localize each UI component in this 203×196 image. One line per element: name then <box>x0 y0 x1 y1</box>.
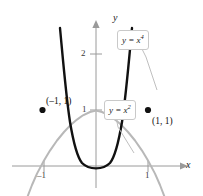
y-axis-label: y <box>113 12 117 23</box>
callout-quartic: y = x4 <box>117 30 149 50</box>
x-tick-label-1: 1 <box>145 170 150 180</box>
x-tick-label-neg1: –1 <box>37 170 46 180</box>
plot-canvas <box>0 0 203 196</box>
leader-line-quartic <box>141 47 157 90</box>
point-marker-left <box>39 107 45 113</box>
callout-quadratic: y = x2 <box>104 100 136 120</box>
callout-quadratic-exponent: 2 <box>128 103 131 110</box>
point-marker-right <box>145 107 151 113</box>
y-tick-label-1: 1 <box>82 104 87 114</box>
callout-quartic-exponent: 4 <box>141 33 144 40</box>
callout-quadratic-text: y = x <box>109 105 128 115</box>
y-tick-label-2: 2 <box>81 48 86 58</box>
point-label-right: (1, 1) <box>152 116 173 126</box>
y-axis-arrow-icon <box>92 20 99 28</box>
point-label-left: (–1, 1) <box>46 96 71 106</box>
x-axis-label: x <box>186 159 190 170</box>
callout-quartic-text: y = x <box>122 35 141 45</box>
graph-figure: y x –1 1 1 2 (–1, 1) (1, 1) y = x4 y = x… <box>0 0 203 196</box>
